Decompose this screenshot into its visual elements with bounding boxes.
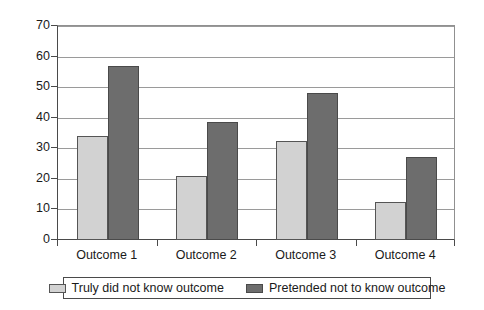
bar[interactable] — [176, 176, 207, 240]
bars-layer — [58, 26, 454, 240]
x-tick-mark — [57, 240, 58, 246]
legend-label: Truly did not know outcome — [72, 282, 224, 295]
y-tick-mark — [51, 239, 57, 240]
bar-group — [276, 26, 338, 240]
y-tick-mark — [51, 178, 57, 179]
y-tick-label: 0 — [0, 233, 50, 246]
y-tick-label: 60 — [0, 49, 50, 62]
x-axis-labels: Outcome 1Outcome 2Outcome 3Outcome 4 — [57, 247, 455, 267]
y-tick-label: 50 — [0, 80, 50, 93]
legend-entry[interactable]: Pretended not to know outcome — [246, 282, 446, 295]
y-tick-mark — [51, 25, 57, 26]
y-tick-label: 70 — [0, 19, 50, 32]
bar-group — [375, 26, 437, 240]
x-tick-mark — [356, 240, 357, 246]
bar[interactable] — [77, 136, 108, 240]
x-tick-mark — [454, 240, 455, 246]
y-axis: 010203040506070 — [0, 25, 50, 240]
x-tick-mark — [157, 240, 158, 246]
bar-group — [176, 26, 238, 240]
y-tick-mark — [51, 56, 57, 57]
y-tick-label: 20 — [0, 172, 50, 185]
bar[interactable] — [307, 93, 338, 240]
legend-label: Pretended not to know outcome — [269, 282, 446, 295]
x-tick-label: Outcome 3 — [275, 247, 336, 263]
legend-swatch-icon — [49, 284, 66, 293]
x-axis-ticks — [57, 240, 455, 246]
x-tick-label: Outcome 4 — [375, 247, 436, 263]
y-tick-label: 30 — [0, 141, 50, 154]
chart-legend: Truly did not know outcomePretended not … — [63, 277, 431, 299]
y-tick-mark — [51, 117, 57, 118]
bar-chart-figure: 010203040506070 Outcome 1Outcome 2Outcom… — [0, 0, 484, 310]
bar[interactable] — [207, 122, 238, 240]
x-tick-mark — [256, 240, 257, 246]
x-tick-label: Outcome 2 — [176, 247, 237, 263]
x-tick-label: Outcome 1 — [76, 247, 137, 263]
y-tick-mark — [51, 86, 57, 87]
bar-group — [77, 26, 139, 240]
bar[interactable] — [406, 157, 437, 240]
bar[interactable] — [276, 141, 307, 240]
legend-swatch-icon — [246, 284, 263, 293]
bar[interactable] — [108, 66, 139, 240]
bar[interactable] — [375, 202, 406, 240]
legend-entry[interactable]: Truly did not know outcome — [49, 282, 224, 295]
y-tick-label: 10 — [0, 202, 50, 215]
y-tick-mark — [51, 208, 57, 209]
y-tick-label: 40 — [0, 110, 50, 123]
y-tick-mark — [51, 147, 57, 148]
